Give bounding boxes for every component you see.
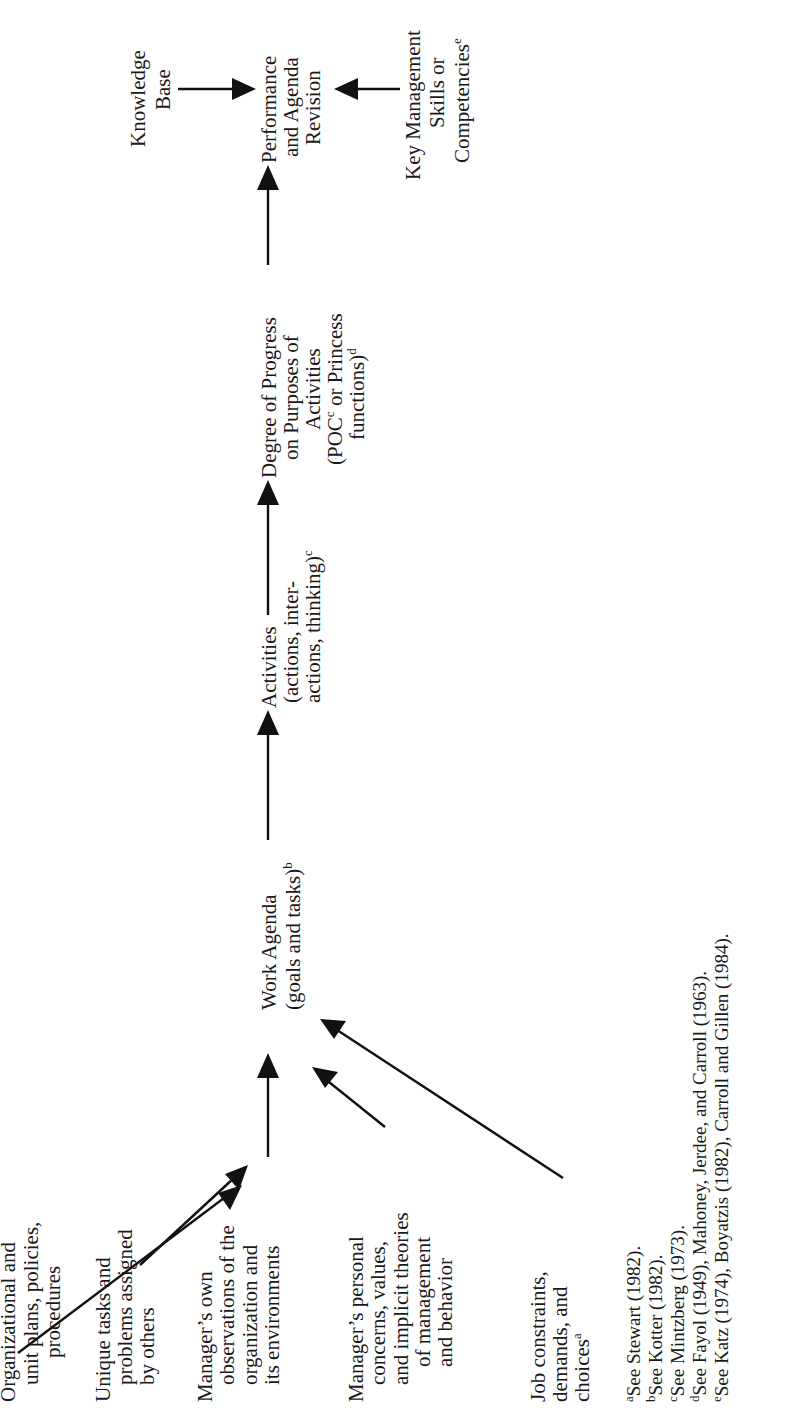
progress-line: functions)d xyxy=(344,348,369,440)
progress-line: Activities xyxy=(301,348,325,430)
arrowhead-icon xyxy=(334,78,358,100)
key-management-line: Competenciese xyxy=(449,38,474,163)
input-personal-concerns: Manager’s personal concerns, values, and… xyxy=(344,1212,457,1402)
activities-line: (actions, inter- xyxy=(279,581,303,703)
arrowhead-icon xyxy=(257,480,279,505)
arrowhead-icon xyxy=(257,1053,279,1078)
input-label-line: by others xyxy=(135,1307,159,1385)
footnote-d: dSee Fayol (1949), Mahoney, Jerdee, and … xyxy=(687,971,711,1402)
input-label-line: Job constraints, xyxy=(526,1271,550,1402)
activities-line: actions, thinking)c xyxy=(300,550,325,703)
node-degree-of-progress: Degree of Progress on Purposes of Activi… xyxy=(257,313,369,478)
footnote-e: eSee Katz (1974), Boyatzis (1982), Carro… xyxy=(709,933,733,1402)
input-label-line: Manager’s own xyxy=(193,1271,217,1402)
arrowhead-icon xyxy=(320,1019,346,1039)
input-observations: Manager’s own observations of the organi… xyxy=(193,1225,284,1402)
activities-title: Activities xyxy=(257,626,281,708)
node-knowledge-base: Knowledge Base xyxy=(126,50,175,147)
input-label-line: and implicit theories xyxy=(389,1212,413,1385)
progress-title: Degree of Progress xyxy=(257,317,281,478)
knowledge-base-line: Base xyxy=(151,69,175,110)
input-label-line: organization and xyxy=(238,1244,262,1385)
input-label-line: problems assigned xyxy=(113,1229,137,1385)
performance-line: Revision xyxy=(301,70,325,145)
work-agenda-subtitle: (goals and tasks)b xyxy=(280,862,305,1010)
arrowhead-icon xyxy=(257,165,279,190)
arrowhead-icon xyxy=(232,78,256,100)
arrowhead-icon xyxy=(225,1165,248,1190)
input-label-line: Manager’s personal xyxy=(344,1236,368,1402)
footnote-c: cSee Mintzberg (1973). xyxy=(665,1225,689,1402)
input-label-line: and behavior xyxy=(433,1258,457,1367)
input-label-line: Organizational and xyxy=(0,1242,20,1402)
footnote-a: aSee Stewart (1982). xyxy=(621,1246,645,1402)
diagram-page: Organizational and unit plans, policies,… xyxy=(0,0,796,1415)
arrow-personal-concerns xyxy=(324,1078,385,1127)
performance-line: Performance xyxy=(257,56,281,163)
node-work-agenda: Work Agenda (goals and tasks)b xyxy=(257,862,305,1010)
key-management-line: Key Management xyxy=(401,30,425,180)
node-performance: Performance and Agenda Revision xyxy=(257,56,325,163)
input-label-line: concerns, values, xyxy=(366,1241,390,1385)
node-key-management: Key Management Skills or Competenciese xyxy=(401,30,474,180)
footnote-b: bSee Kotter (1982). xyxy=(643,1255,667,1402)
footnotes: aSee Stewart (1982). bSee Kotter (1982).… xyxy=(621,933,733,1402)
input-label-line: demands, and xyxy=(548,1286,572,1402)
input-label-line: observations of the xyxy=(215,1225,239,1385)
arrowhead-icon xyxy=(257,710,279,735)
input-org-plans: Organizational and unit plans, policies,… xyxy=(0,1222,65,1402)
key-management-line: Skills or xyxy=(425,57,449,128)
arrow-job-constraints xyxy=(334,1028,563,1178)
input-job-constraints: Job constraints, demands, and choicesa xyxy=(526,1271,594,1402)
input-label-line: of management xyxy=(411,1237,435,1367)
work-agenda-model-diagram: Organizational and unit plans, policies,… xyxy=(0,0,796,1415)
input-label-line: choicesa xyxy=(569,1333,594,1402)
work-agenda-title: Work Agenda xyxy=(257,894,281,1010)
input-label-line: unit plans, policies, xyxy=(19,1222,43,1385)
knowledge-base-line: Knowledge xyxy=(126,50,150,147)
input-label-line: its environments xyxy=(260,1246,284,1385)
progress-line: on Purposes of xyxy=(279,335,303,460)
progress-line: (POCc or Princess xyxy=(322,313,347,465)
input-label-line: Unique tasks and xyxy=(91,1257,115,1402)
performance-line: and Agenda xyxy=(279,57,303,157)
input-label-line: procedures xyxy=(41,1266,65,1358)
